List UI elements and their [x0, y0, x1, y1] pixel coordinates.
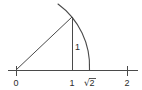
geometry-figure: 1 0 1 √ 2 2 [0, 0, 142, 90]
tick-label-0: 0 [13, 78, 18, 88]
tick-label-sqrt2: √ 2 [84, 78, 96, 88]
radicand-value: 2 [90, 78, 95, 88]
hypotenuse-segment [16, 17, 72, 70]
radius-sweep-arc [58, 4, 90, 70]
vertical-leg-label: 1 [75, 42, 80, 52]
figure-canvas: 1 0 1 √ 2 2 [0, 0, 142, 90]
tick-label-1: 1 [69, 78, 74, 88]
tick-label-2: 2 [124, 78, 129, 88]
